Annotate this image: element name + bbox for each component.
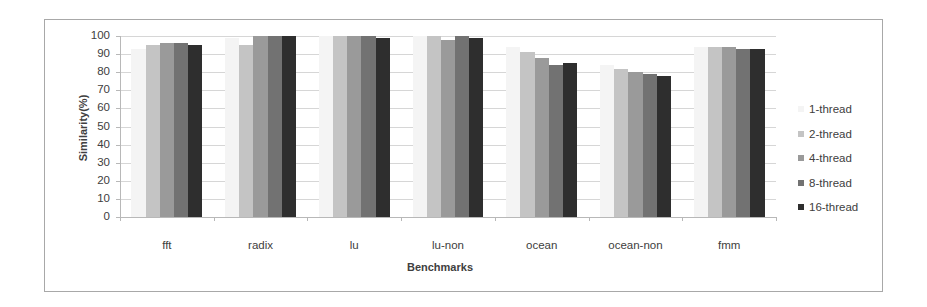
x-tick-mark bbox=[682, 217, 683, 221]
legend-item: 1-thread bbox=[798, 97, 858, 122]
y-tick-mark bbox=[116, 90, 120, 91]
y-tick-mark bbox=[116, 54, 120, 55]
y-tick-label: 100 bbox=[70, 29, 110, 41]
y-tick-mark bbox=[116, 108, 120, 109]
legend-label: 1-thread bbox=[809, 103, 852, 115]
bar-lu-1-thread bbox=[319, 36, 333, 217]
x-axis-line bbox=[120, 217, 776, 218]
legend-swatch-icon bbox=[798, 106, 804, 112]
x-tick-mark bbox=[589, 217, 590, 221]
bar-ocean-non-4-thread bbox=[628, 72, 642, 217]
y-tick-mark bbox=[116, 199, 120, 200]
y-tick-mark bbox=[116, 72, 120, 73]
y-tick-label: 60 bbox=[70, 101, 110, 113]
y-axis-title: Similarity(%) bbox=[77, 83, 89, 173]
y-tick-label: 50 bbox=[70, 120, 110, 132]
bar-radix-8-thread bbox=[268, 36, 282, 217]
legend-item: 2-thread bbox=[798, 122, 858, 147]
x-tick-mark bbox=[495, 217, 496, 221]
bar-fft-8-thread bbox=[174, 43, 188, 217]
bar-lu-4-thread bbox=[347, 36, 361, 217]
legend-label: 4-thread bbox=[809, 152, 852, 164]
x-tick-mark bbox=[401, 217, 402, 221]
x-category-label: radix bbox=[216, 239, 306, 251]
bar-fmm-1-thread bbox=[694, 47, 708, 217]
bar-ocean-non-16-thread bbox=[657, 76, 671, 217]
y-tick-label: 70 bbox=[70, 83, 110, 95]
bar-lu-non-4-thread bbox=[441, 40, 455, 217]
bar-radix-2-thread bbox=[239, 45, 253, 217]
bar-ocean-non-1-thread bbox=[600, 65, 614, 217]
bar-fmm-2-thread bbox=[708, 47, 722, 217]
bar-fmm-8-thread bbox=[736, 49, 750, 217]
bar-lu-8-thread bbox=[361, 36, 375, 217]
bar-lu-2-thread bbox=[333, 36, 347, 217]
bar-ocean-2-thread bbox=[520, 52, 534, 217]
bar-radix-1-thread bbox=[225, 38, 239, 217]
bar-ocean-16-thread bbox=[563, 63, 577, 217]
legend-swatch-icon bbox=[798, 204, 804, 210]
bar-ocean-non-2-thread bbox=[614, 69, 628, 217]
y-tick-label: 80 bbox=[70, 65, 110, 77]
legend-item: 8-thread bbox=[798, 171, 858, 196]
bar-radix-16-thread bbox=[282, 36, 296, 217]
x-category-label: lu-non bbox=[403, 239, 493, 251]
legend-swatch-icon bbox=[798, 155, 804, 161]
bar-fmm-16-thread bbox=[750, 49, 764, 217]
y-tick-label: 40 bbox=[70, 138, 110, 150]
bar-fft-1-thread bbox=[131, 49, 145, 217]
legend-label: 16-thread bbox=[809, 201, 858, 213]
x-category-label: lu bbox=[309, 239, 399, 251]
bar-ocean-1-thread bbox=[506, 47, 520, 217]
legend-item: 16-thread bbox=[798, 195, 858, 220]
bar-ocean-4-thread bbox=[535, 58, 549, 217]
legend-label: 8-thread bbox=[809, 177, 852, 189]
y-tick-mark bbox=[116, 163, 120, 164]
legend-label: 2-thread bbox=[809, 128, 852, 140]
y-tick-label: 0 bbox=[70, 210, 110, 222]
bar-ocean-non-8-thread bbox=[643, 74, 657, 217]
x-category-label: fmm bbox=[684, 239, 774, 251]
legend: 1-thread2-thread4-thread8-thread16-threa… bbox=[798, 97, 858, 220]
y-tick-label: 20 bbox=[70, 174, 110, 186]
x-tick-mark bbox=[776, 217, 777, 221]
bar-fmm-4-thread bbox=[722, 47, 736, 217]
x-category-label: fft bbox=[122, 239, 212, 251]
bar-fft-4-thread bbox=[160, 43, 174, 217]
bar-lu-non-16-thread bbox=[469, 38, 483, 217]
bar-lu-non-2-thread bbox=[427, 36, 441, 217]
x-tick-mark bbox=[120, 217, 121, 221]
bar-fft-2-thread bbox=[146, 45, 160, 217]
y-tick-mark bbox=[116, 127, 120, 128]
x-tick-mark bbox=[214, 217, 215, 221]
bar-radix-4-thread bbox=[253, 36, 267, 217]
gridline bbox=[120, 36, 776, 37]
y-tick-label: 30 bbox=[70, 156, 110, 168]
x-tick-mark bbox=[307, 217, 308, 221]
x-category-label: ocean bbox=[497, 239, 587, 251]
y-tick-mark bbox=[116, 181, 120, 182]
legend-swatch-icon bbox=[798, 131, 804, 137]
legend-swatch-icon bbox=[798, 180, 804, 186]
bar-lu-non-1-thread bbox=[413, 36, 427, 217]
bar-lu-16-thread bbox=[376, 38, 390, 217]
y-axis-line bbox=[120, 36, 121, 217]
x-axis-title: Benchmarks bbox=[380, 261, 500, 273]
bar-ocean-8-thread bbox=[549, 65, 563, 217]
bar-lu-non-8-thread bbox=[455, 36, 469, 217]
plot-area bbox=[120, 36, 776, 217]
bar-fft-16-thread bbox=[188, 45, 202, 217]
y-tick-label: 90 bbox=[70, 47, 110, 59]
x-category-label: ocean-non bbox=[590, 239, 680, 251]
legend-item: 4-thread bbox=[798, 146, 858, 171]
y-tick-label: 10 bbox=[70, 192, 110, 204]
y-tick-mark bbox=[116, 145, 120, 146]
y-tick-mark bbox=[116, 36, 120, 37]
